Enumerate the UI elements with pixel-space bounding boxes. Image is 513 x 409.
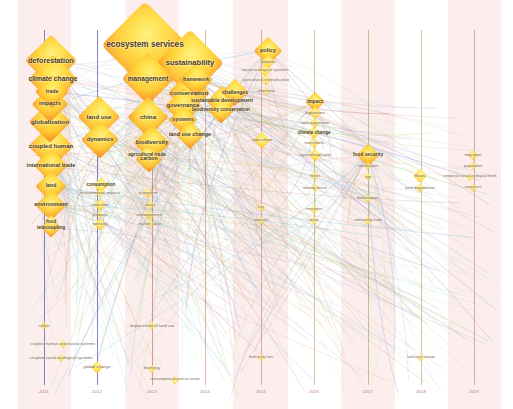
axis-tick-label: 2013	[147, 389, 157, 394]
axis-tick-label: 2011	[39, 389, 49, 394]
axis-tick-label: 2018	[416, 389, 426, 394]
visualization-canvas[interactable]: land cover changebiodiversity lossbioene…	[0, 0, 513, 409]
axis-tick-label: 2019	[469, 389, 479, 394]
axis-tick-label: 2015	[256, 389, 266, 394]
year-axis: 201120122013201420152016201720182019	[0, 0, 513, 409]
axis-tick-label: 2016	[309, 389, 319, 394]
axis-tick-label: 2014	[200, 389, 210, 394]
axis-tick-label: 2017	[363, 389, 373, 394]
axis-tick-label: 2012	[92, 389, 102, 394]
